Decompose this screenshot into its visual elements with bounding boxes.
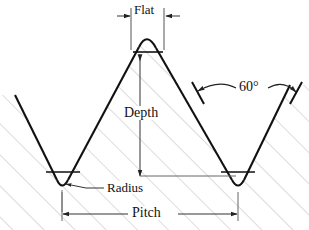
thread-profile-diagram: Flat Depth 60° Radius Pitch [0,0,309,230]
pitch-dimension-label: Pitch [131,206,162,220]
depth-dimension-label: Depth [123,106,159,120]
flat-dimension-label: Flat [133,3,155,16]
angle-leader-left [198,84,236,91]
angle-flank-tick-left [192,82,204,104]
radius-callout-label: Radius [106,181,144,194]
angle-dimension-label: 60° [238,80,260,94]
